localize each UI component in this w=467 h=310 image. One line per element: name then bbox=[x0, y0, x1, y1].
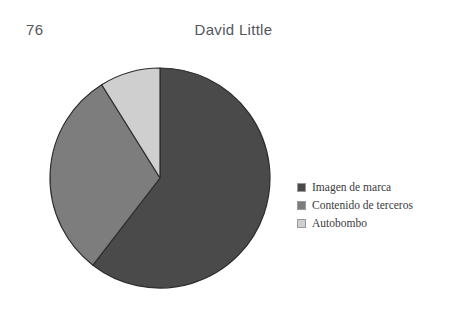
pie-chart bbox=[48, 66, 272, 290]
legend-label-contenido-de-terceros: Contenido de terceros bbox=[312, 198, 413, 212]
pie-chart-figure: Imagen de marca Contenido de terceros Au… bbox=[0, 0, 467, 310]
legend-swatch-imagen-de-marca bbox=[297, 183, 306, 192]
chart-legend: Imagen de marca Contenido de terceros Au… bbox=[297, 179, 447, 233]
legend-item-autobombo: Autobombo bbox=[297, 215, 447, 231]
document-page: 76 David Little Imagen de marca Contenid… bbox=[0, 0, 467, 310]
legend-label-imagen-de-marca: Imagen de marca bbox=[312, 180, 391, 194]
legend-item-imagen-de-marca: Imagen de marca bbox=[297, 179, 447, 195]
legend-swatch-autobombo bbox=[297, 219, 306, 228]
legend-label-autobombo: Autobombo bbox=[312, 216, 367, 230]
legend-item-contenido-de-terceros: Contenido de terceros bbox=[297, 197, 447, 213]
pie-slice-group bbox=[50, 68, 270, 288]
pie-chart-svg bbox=[48, 66, 272, 290]
legend-swatch-contenido-de-terceros bbox=[297, 201, 306, 210]
